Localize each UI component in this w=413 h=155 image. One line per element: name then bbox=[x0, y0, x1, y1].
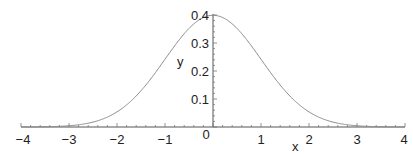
x-tick-label: −2 bbox=[110, 132, 125, 147]
x-tick-label: −1 bbox=[158, 132, 173, 147]
x-tick-label: −3 bbox=[62, 132, 77, 147]
y-axis-label: y bbox=[177, 54, 184, 69]
y-tick-label: 0.1 bbox=[191, 92, 209, 107]
y-tick-label: 0.3 bbox=[191, 36, 209, 51]
axes bbox=[21, 14, 405, 127]
x-axis-label: x bbox=[292, 139, 299, 154]
x-tick-label: −4 bbox=[16, 132, 31, 147]
y-tick-labels: 0.10.20.30.4 bbox=[191, 8, 209, 107]
x-tick-label: 0 bbox=[202, 127, 209, 142]
x-tick-label: 1 bbox=[257, 132, 264, 147]
y-tick-label: 0.4 bbox=[191, 8, 209, 23]
x-tick-label: 2 bbox=[305, 132, 312, 147]
y-ticks bbox=[213, 15, 217, 127]
x-tick-label: 3 bbox=[353, 132, 360, 147]
x-tick-label: 4 bbox=[400, 132, 407, 147]
y-tick-label: 0.2 bbox=[191, 64, 209, 79]
normal-distribution-chart: −4−3−2−101234 0.10.20.30.4 x y bbox=[0, 0, 413, 155]
x-tick-labels: −4−3−2−101234 bbox=[16, 127, 408, 147]
